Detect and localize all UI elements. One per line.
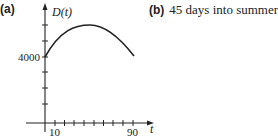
- y-axis-label: D(t): [51, 5, 72, 19]
- x-tick-label-90: 90: [127, 126, 139, 138]
- y-axis-arrow-icon: [43, 3, 48, 10]
- graph-d-of-t: 4000 10 90 t D(t): [0, 0, 278, 138]
- x-axis-label: t: [150, 122, 154, 136]
- d-of-t-curve: [45, 25, 134, 57]
- x-tick-label-10: 10: [49, 126, 61, 138]
- y-tick-label-4000: 4000: [18, 51, 41, 63]
